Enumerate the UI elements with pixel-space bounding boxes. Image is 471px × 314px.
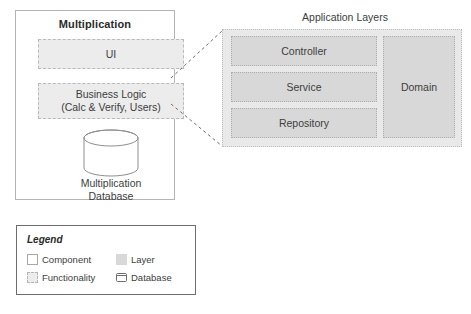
component-swatch-icon xyxy=(27,254,38,265)
database-swatch-icon xyxy=(116,272,127,283)
legend-title: Legend xyxy=(27,234,63,245)
layer-service-label: Service xyxy=(286,81,321,93)
functionality-swatch-icon xyxy=(27,272,38,283)
app-layers-container: Controller Service Repository Domain xyxy=(222,29,462,147)
legend-box: Legend Component Functionality Layer Dat… xyxy=(16,225,196,295)
legend-item-layer: Layer xyxy=(116,254,155,265)
database-cylinder-icon xyxy=(82,129,140,177)
layer-service: Service xyxy=(231,72,377,102)
diagram-canvas: Multiplication UI Business Logic (Calc &… xyxy=(0,0,471,314)
legend-item-layer-label: Layer xyxy=(131,254,155,265)
layer-swatch-icon xyxy=(116,254,127,265)
layer-controller-label: Controller xyxy=(281,45,327,57)
functionality-business-logic-sublabel: (Calc & Verify, Users) xyxy=(61,101,161,114)
legend-item-component: Component xyxy=(27,254,91,265)
app-layers-title: Application Layers xyxy=(222,11,468,23)
component-title: Multiplication xyxy=(16,18,174,30)
legend-item-functionality-label: Functionality xyxy=(42,272,95,283)
layer-controller: Controller xyxy=(231,36,377,66)
functionality-business-logic-label: Business Logic xyxy=(76,88,147,101)
functionality-ui: UI xyxy=(38,39,184,69)
layer-domain-label: Domain xyxy=(401,81,437,93)
legend-item-database-label: Database xyxy=(131,272,172,283)
database-label: Multiplication Database xyxy=(31,177,191,203)
database-label-line1: Multiplication xyxy=(31,177,191,190)
legend-item-component-label: Component xyxy=(42,254,91,265)
layer-repository: Repository xyxy=(231,108,377,138)
database-label-line2: Database xyxy=(31,190,191,203)
functionality-business-logic: Business Logic (Calc & Verify, Users) xyxy=(38,83,184,119)
layer-repository-label: Repository xyxy=(279,117,329,129)
functionality-ui-label: UI xyxy=(106,48,117,61)
component-multiplication: Multiplication UI Business Logic (Calc &… xyxy=(15,10,175,200)
legend-item-functionality: Functionality xyxy=(27,272,95,283)
layer-domain: Domain xyxy=(383,36,455,138)
legend-item-database: Database xyxy=(116,272,172,283)
